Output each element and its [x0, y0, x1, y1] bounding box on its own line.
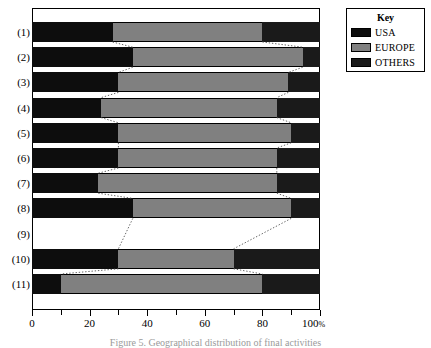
- stacked-bar: [32, 173, 320, 193]
- bar-segment-usa: [32, 47, 133, 67]
- bar-segment-others: [303, 47, 320, 67]
- stacked-bar: [32, 249, 320, 269]
- swatch-icon: [351, 43, 371, 52]
- legend-item: EUROPE: [351, 40, 420, 55]
- bar-segment-others: [277, 98, 320, 118]
- stacked-bar: [32, 22, 320, 42]
- stacked-bar: [32, 47, 320, 67]
- bar-segment-europe: [133, 47, 303, 67]
- axis-tick: [205, 310, 206, 316]
- row-label: (5): [0, 123, 30, 143]
- bar-segment-others: [291, 123, 320, 143]
- row-label: (4): [0, 98, 30, 118]
- figure-container: (1)(2)(3)(4)(5)(6)(7)(8)(9)(10)(11) 0204…: [0, 0, 431, 348]
- bar-segment-europe: [113, 22, 263, 42]
- bar-row: (9): [0, 224, 431, 244]
- row-label: (9): [0, 224, 30, 244]
- bar-segment-usa: [32, 123, 118, 143]
- bar-segment-usa: [32, 98, 101, 118]
- bar-segment-others: [277, 173, 320, 193]
- bar-segment-europe: [101, 98, 277, 118]
- axis-tick-label: 40: [142, 317, 153, 329]
- bar-segment-others: [288, 72, 320, 92]
- bar-segment-usa: [32, 72, 118, 92]
- stacked-bar: [32, 123, 320, 143]
- bar-segment-europe: [118, 123, 291, 143]
- bar-row: (8): [0, 198, 431, 218]
- row-label: (11): [0, 274, 30, 294]
- bar-row: (10): [0, 249, 431, 269]
- bar-segment-others: [262, 22, 320, 42]
- row-label: (6): [0, 148, 30, 168]
- bar-row: (3): [0, 72, 431, 92]
- axis-tick: [176, 310, 177, 315]
- bar-row: (6): [0, 148, 431, 168]
- row-label: (1): [0, 22, 30, 42]
- bar-segment-europe: [118, 148, 276, 168]
- bar-segment-usa: [32, 22, 113, 42]
- legend-item-label: USA: [375, 27, 396, 38]
- bar-segment-europe: [133, 198, 291, 218]
- bar-segment-usa: [32, 198, 133, 218]
- bar-segment-usa: [32, 148, 118, 168]
- axis-tick-label: 20: [84, 317, 95, 329]
- axis-tick: [32, 310, 33, 316]
- bar-segment-others: [234, 249, 320, 269]
- row-label: (8): [0, 198, 30, 218]
- legend-items: USAEUROPEOTHERS: [351, 25, 420, 70]
- row-label: (10): [0, 249, 30, 269]
- stacked-bar: [32, 148, 320, 168]
- axis-tick: [262, 310, 263, 316]
- axis-tick-label: 0: [29, 317, 35, 329]
- axis-tick: [61, 310, 62, 315]
- figure-caption: Figure 5. Geographical distribution of f…: [0, 337, 431, 348]
- axis-percent-sign: %: [318, 320, 325, 329]
- stacked-bar: [32, 98, 320, 118]
- legend-item: USA: [351, 25, 420, 40]
- bar-segment-usa: [32, 249, 118, 269]
- x-axis: 020406080100%: [32, 310, 320, 318]
- bar-segment-usa: [32, 173, 98, 193]
- axis-max-value: 100: [302, 317, 319, 329]
- bar-row: (11): [0, 274, 431, 294]
- stacked-bar: [32, 72, 320, 92]
- bar-segment-europe: [118, 249, 233, 269]
- axis-tick: [320, 310, 321, 316]
- stacked-bar: [32, 274, 320, 294]
- legend-box: Key USAEUROPEOTHERS: [346, 8, 425, 72]
- swatch-icon: [351, 58, 371, 67]
- axis-tick-label: 80: [257, 317, 268, 329]
- bar-row: (5): [0, 123, 431, 143]
- bar-segment-others: [291, 198, 320, 218]
- row-label: (2): [0, 47, 30, 67]
- stacked-bar: [32, 198, 320, 218]
- bar-row: (4): [0, 98, 431, 118]
- bar-segment-usa: [32, 274, 61, 294]
- bar-row: (7): [0, 173, 431, 193]
- axis-tick: [90, 310, 91, 316]
- row-label: (7): [0, 173, 30, 193]
- row-label: (3): [0, 72, 30, 92]
- bar-segment-europe: [118, 72, 288, 92]
- axis-tick: [147, 310, 148, 316]
- legend-item: OTHERS: [351, 55, 420, 70]
- legend-title: Key: [351, 12, 420, 24]
- bar-segment-others: [277, 148, 320, 168]
- bar-segment-europe: [61, 274, 263, 294]
- axis-tick: [291, 310, 292, 315]
- axis-tick-label: 60: [199, 317, 210, 329]
- bar-segment-others: [262, 274, 320, 294]
- bar-segment-europe: [98, 173, 277, 193]
- legend-item-label: OTHERS: [375, 57, 415, 68]
- axis-tick: [118, 310, 119, 315]
- swatch-icon: [351, 28, 371, 37]
- axis-tick-label-max: 100%: [302, 317, 325, 329]
- axis-tick: [234, 310, 235, 315]
- legend-item-label: EUROPE: [375, 42, 415, 53]
